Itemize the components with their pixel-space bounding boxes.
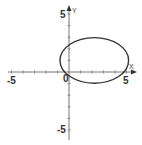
x-tick-label-5: 5	[123, 75, 129, 86]
origin-label: 0	[63, 73, 69, 84]
x-tick-label-neg5: -5	[7, 75, 16, 86]
y-tick-label-5: 5	[60, 9, 66, 20]
y-axis-arrow-icon	[67, 5, 72, 11]
y-axis-label: Y	[72, 7, 77, 14]
x-axis-arrow-icon	[131, 70, 137, 75]
plot-area: -5 5 0 5 -5 Y X	[0, 0, 142, 145]
y-tick-label-neg5: -5	[57, 124, 66, 135]
x-axis-label: X	[129, 63, 134, 70]
